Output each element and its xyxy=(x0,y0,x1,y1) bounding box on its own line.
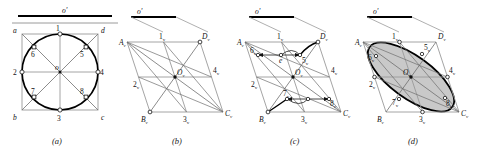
panel-c-label-A: Av xyxy=(236,38,245,48)
panel-a-center-label: o xyxy=(55,63,59,72)
panel-c-label-D: Dv xyxy=(319,32,328,42)
panel-d-caption: (d) xyxy=(408,136,418,146)
panel-c-label-1: 1v xyxy=(277,32,284,42)
panel-d-point-7 xyxy=(397,97,400,100)
panel-a-label-6: 6 xyxy=(31,50,35,59)
panel-c-caption: (c) xyxy=(290,136,300,146)
panel-d-oprime-label: o' xyxy=(373,7,379,16)
panel-c-edge-receder-left xyxy=(249,17,281,32)
panel-a-oprime-label: o' xyxy=(62,6,68,15)
panel-c-vertex-B xyxy=(266,110,270,114)
panel-a: o' a d b c o 1 2 3 4 5 6 7 xyxy=(12,6,118,146)
panel-b-label-4: 4v xyxy=(213,66,220,76)
panel-b-caption: (b) xyxy=(172,136,182,146)
panel-a-point-6 xyxy=(32,45,36,49)
panel-a-label-8: 8 xyxy=(80,87,84,96)
panel-c-label-5: 5v xyxy=(302,56,309,66)
panel-a-caption: (a) xyxy=(52,136,62,146)
panel-c-label-6: 6v xyxy=(250,46,257,56)
panel-b-ray-a-to-4 xyxy=(127,42,212,77)
panel-b-ray-c-to-2 xyxy=(139,77,224,112)
panel-c-arc-lower xyxy=(268,99,287,112)
panel-c-label-2: 2v xyxy=(251,80,258,90)
panel-a-corner-a: a xyxy=(13,26,17,35)
panel-a-corner-d: d xyxy=(101,26,105,35)
panel-b-vertex-B xyxy=(148,110,152,114)
panel-a-label-3: 3 xyxy=(57,114,61,123)
panel-c-ray-c-to-2 xyxy=(257,77,342,112)
panel-d-point-3 xyxy=(421,110,425,114)
panel-b-label-C: Cv xyxy=(225,109,233,119)
panel-a-label-4: 4 xyxy=(100,68,104,77)
panel-a-point-8 xyxy=(84,95,88,99)
panel-d-point-5 xyxy=(420,52,423,55)
panel-b-edge-receder-left xyxy=(131,17,163,32)
panel-d-point-2 xyxy=(373,75,377,79)
panel-b-label-O: Ov xyxy=(177,68,185,78)
panel-d-label-5: 5v xyxy=(424,43,431,53)
panel-d: o' Av Dv Bv Cv Ov 1v 2v 3v 4v 5v 6v 7v 8… xyxy=(354,7,469,146)
panel-c-label-B: Bv xyxy=(259,115,267,125)
panel-b-label-1: 1v xyxy=(159,32,166,42)
panel-c-oprime-label: o' xyxy=(255,7,261,16)
panel-d-label-4: 4v xyxy=(449,66,456,76)
panel-a-point-3 xyxy=(58,108,62,112)
panel-c-label-O: Ov xyxy=(295,68,303,78)
panel-d-label-A: Av xyxy=(354,38,363,48)
panel-a-center-point xyxy=(59,71,62,74)
panel-d-label-1: 1v xyxy=(392,32,399,42)
panel-b-label-3: 3v xyxy=(183,115,190,125)
panel-a-label-1: 1 xyxy=(56,24,60,33)
panel-b-label-D: Dv xyxy=(201,32,210,42)
panel-b-label-A: Av xyxy=(118,38,127,48)
figure-canvas: o' a d b c o 1 2 3 4 5 6 7 xyxy=(0,0,495,157)
panel-b-label-2: 2v xyxy=(133,80,140,90)
panel-b-oprime-label: o' xyxy=(137,7,143,16)
panel-c: o' Av Dv Bv Cv Ov xyxy=(236,7,351,146)
panel-c-ray-a-to-4 xyxy=(245,42,330,77)
panel-a-point-2 xyxy=(20,70,24,74)
panel-c-point-mid-lower xyxy=(306,97,309,100)
panel-b: o' Av Dv Bv Cv Ov 1v 2v 3v 4v (b) xyxy=(118,7,233,146)
panel-d-label-2: 2v xyxy=(369,80,376,90)
panel-c-point-6 xyxy=(256,53,259,56)
panel-c-arc-upper xyxy=(300,42,318,55)
panel-a-label-7: 7 xyxy=(31,87,35,96)
panel-a-label-5: 5 xyxy=(80,50,84,59)
panel-d-edge-receder-right xyxy=(412,17,444,32)
panel-a-corner-c: c xyxy=(101,113,105,122)
panel-d-label-D: Dv xyxy=(437,32,446,42)
panel-c-label-3: 3v xyxy=(301,115,308,125)
panel-c-edge-receder-right xyxy=(294,17,326,32)
panel-b-label-B: Bv xyxy=(141,115,149,125)
panel-c-label-C: Cv xyxy=(343,109,351,119)
panel-b-edge-receder-right xyxy=(176,17,208,32)
panel-a-point-5 xyxy=(84,45,88,49)
panel-c-label-8: 8v xyxy=(330,99,337,109)
panel-a-corner-b: b xyxy=(13,113,17,122)
panel-d-edge-receder-left xyxy=(367,17,399,32)
panel-d-point-6 xyxy=(374,54,377,57)
panel-d-label-C: Cv xyxy=(461,109,469,119)
panel-d-label-3: 3v xyxy=(419,115,426,125)
panel-c-label-4: 4v xyxy=(331,66,338,76)
figure-isometric-circle-construction: o' a d b c o 1 2 3 4 5 6 7 xyxy=(0,0,495,157)
panel-a-label-2: 2 xyxy=(13,68,17,77)
panel-d-label-B: Bv xyxy=(377,115,385,125)
panel-d-point-4 xyxy=(446,75,450,79)
